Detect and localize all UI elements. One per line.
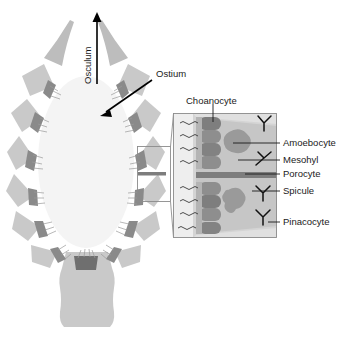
sponge-diagram-svg: Osculum Ostium Choanocyte Amoebocyte Mes… (0, 0, 349, 341)
label-ostium: Ostium (156, 68, 186, 79)
label-spicule: Spicule (283, 185, 314, 196)
label-osculum: Osculum (82, 46, 93, 84)
body-porocyte-channel (138, 172, 166, 176)
choanocyte-band-bottom (74, 256, 98, 270)
inset-outer-layer (173, 113, 193, 238)
inset-magnification (173, 113, 277, 238)
label-pinacocyte: Pinacocyte (283, 216, 329, 227)
label-choanocyte: Choanocyte (186, 95, 237, 106)
porocyte-bar (196, 172, 277, 178)
label-mesohyl: Mesohyl (283, 154, 318, 165)
diagram-canvas: Osculum Ostium Choanocyte Amoebocyte Mes… (0, 0, 349, 341)
label-porocyte: Porocyte (283, 168, 321, 179)
label-amoebocyte: Amoebocyte (283, 137, 336, 148)
